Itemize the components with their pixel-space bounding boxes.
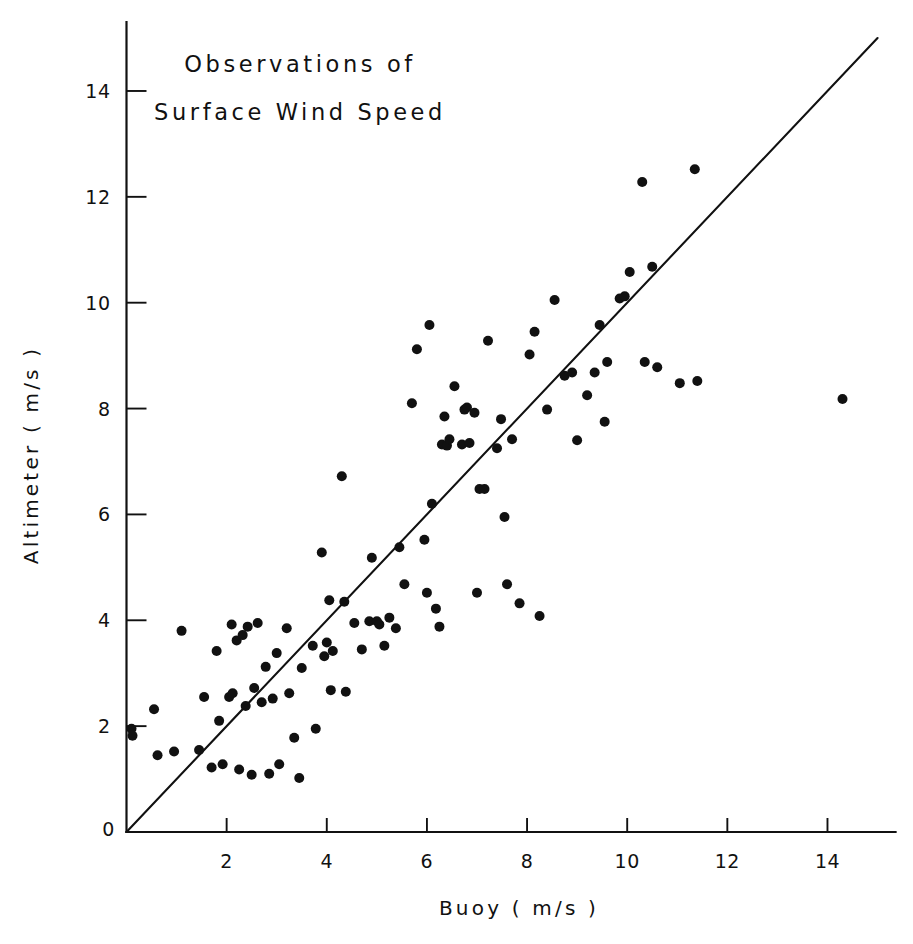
data-point bbox=[177, 626, 187, 636]
data-point bbox=[572, 435, 582, 445]
data-point bbox=[149, 704, 159, 714]
data-point bbox=[272, 648, 282, 658]
data-point bbox=[212, 646, 222, 656]
x-tick-label-4: 4 bbox=[320, 850, 333, 872]
data-point bbox=[431, 604, 441, 614]
data-point bbox=[496, 414, 506, 424]
data-point bbox=[349, 618, 359, 628]
y-tick-label-8: 8 bbox=[98, 398, 111, 420]
data-point bbox=[384, 613, 394, 623]
data-point bbox=[444, 434, 454, 444]
x-tick-label-10: 10 bbox=[615, 850, 640, 872]
y-axis-ticks bbox=[127, 91, 147, 726]
data-point bbox=[595, 320, 605, 330]
data-point bbox=[675, 378, 685, 388]
data-point bbox=[530, 327, 540, 337]
data-point bbox=[394, 542, 404, 552]
data-point bbox=[535, 611, 545, 621]
data-point bbox=[602, 357, 612, 367]
data-point bbox=[374, 620, 384, 630]
y-tick-label-4: 4 bbox=[98, 609, 111, 631]
scatter-plot-svg: 02468101214 2468101214 Observations of S… bbox=[0, 0, 913, 944]
data-point bbox=[328, 646, 338, 656]
data-point bbox=[253, 618, 263, 628]
data-point bbox=[249, 683, 259, 693]
data-point bbox=[600, 417, 610, 427]
data-point bbox=[317, 548, 327, 558]
data-point bbox=[339, 597, 349, 607]
data-point bbox=[500, 512, 510, 522]
y-axis-tick-labels: 2468101214 bbox=[85, 80, 110, 737]
data-point bbox=[399, 579, 409, 589]
data-point bbox=[427, 499, 437, 509]
data-point bbox=[228, 688, 238, 698]
data-point bbox=[297, 663, 307, 673]
data-point bbox=[308, 641, 318, 651]
data-point bbox=[502, 579, 512, 589]
data-point bbox=[419, 535, 429, 545]
data-point bbox=[282, 623, 292, 633]
data-point bbox=[357, 644, 367, 654]
data-point bbox=[550, 295, 560, 305]
data-point bbox=[507, 434, 517, 444]
data-point bbox=[241, 701, 251, 711]
data-point bbox=[407, 398, 417, 408]
x-axis-title: Buoy ( m/s ) bbox=[439, 896, 599, 920]
data-point bbox=[483, 336, 493, 346]
data-point bbox=[243, 622, 253, 632]
data-point bbox=[289, 733, 299, 743]
data-point bbox=[640, 357, 650, 367]
y-tick-label-10: 10 bbox=[85, 292, 110, 314]
data-point bbox=[153, 750, 163, 760]
y-tick-label-2: 2 bbox=[98, 715, 111, 737]
data-point bbox=[261, 662, 271, 672]
data-point bbox=[324, 595, 334, 605]
data-point bbox=[268, 694, 278, 704]
data-point bbox=[582, 390, 592, 400]
data-point bbox=[337, 471, 347, 481]
data-point bbox=[311, 724, 321, 734]
x-tick-label-2: 2 bbox=[220, 850, 233, 872]
data-point bbox=[257, 697, 267, 707]
one-to-one-reference-line bbox=[127, 38, 878, 832]
data-point bbox=[515, 598, 525, 608]
data-point bbox=[341, 687, 351, 697]
data-point bbox=[690, 164, 700, 174]
data-point bbox=[264, 769, 274, 779]
data-point bbox=[218, 759, 228, 769]
x-axis-ticks bbox=[227, 818, 828, 832]
x-tick-label-12: 12 bbox=[715, 850, 740, 872]
data-point bbox=[326, 685, 336, 695]
data-point bbox=[434, 622, 444, 632]
data-point bbox=[449, 381, 459, 391]
x-tick-label-6: 6 bbox=[421, 850, 434, 872]
data-point bbox=[234, 765, 244, 775]
y-tick-label-6: 6 bbox=[98, 503, 111, 525]
data-point bbox=[542, 405, 552, 415]
data-point bbox=[439, 411, 449, 421]
data-point bbox=[472, 588, 482, 598]
data-point bbox=[294, 773, 304, 783]
chart-title-line-2: Surface Wind Speed bbox=[154, 99, 446, 125]
data-point bbox=[238, 630, 248, 640]
chart-title-line-1: Observations of bbox=[184, 51, 416, 77]
data-point bbox=[169, 747, 179, 757]
data-point bbox=[625, 267, 635, 277]
data-point bbox=[284, 688, 294, 698]
data-point bbox=[227, 620, 237, 630]
scatter-points-group bbox=[127, 164, 848, 783]
data-point bbox=[194, 745, 204, 755]
data-point bbox=[367, 553, 377, 563]
data-point bbox=[469, 408, 479, 418]
data-point bbox=[620, 291, 630, 301]
data-point bbox=[525, 350, 535, 360]
data-point bbox=[379, 641, 389, 651]
figure-container: 02468101214 2468101214 Observations of S… bbox=[0, 0, 913, 944]
data-point bbox=[128, 731, 138, 741]
x-tick-label-14: 14 bbox=[815, 850, 840, 872]
data-point bbox=[322, 638, 332, 648]
y-tick-label-14: 14 bbox=[85, 80, 110, 102]
data-point bbox=[207, 762, 217, 772]
x-tick-label-8: 8 bbox=[521, 850, 534, 872]
data-point bbox=[480, 484, 490, 494]
